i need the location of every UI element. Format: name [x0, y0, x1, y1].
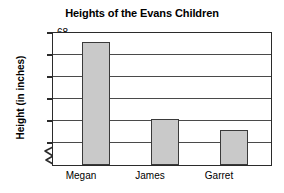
bar-garret: [220, 130, 248, 165]
chart-title: Heights of the Evans Children: [0, 7, 284, 20]
y-axis-title: Height (in inches): [15, 33, 26, 163]
x-tick-label-garret: Garret: [194, 170, 244, 181]
bar-james: [151, 119, 179, 165]
x-tick-label-james: James: [125, 170, 175, 181]
x-tick-label-megan: Megan: [56, 170, 106, 181]
bar-megan: [82, 42, 110, 165]
plot-area: [52, 32, 272, 166]
bar-chart-figure: Heights of the Evans Children Height (in…: [0, 0, 284, 193]
